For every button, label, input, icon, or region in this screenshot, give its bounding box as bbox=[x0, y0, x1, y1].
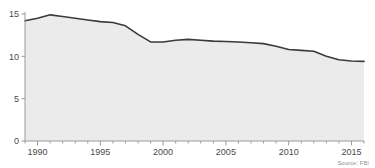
x-tick-label: 1990 bbox=[28, 147, 48, 157]
y-tick-label: 5 bbox=[14, 94, 19, 104]
area-fill bbox=[25, 15, 364, 141]
y-tick-label: 10 bbox=[9, 52, 19, 62]
chart-container: 051015 199019952000200520102015 Source: … bbox=[0, 0, 375, 168]
y-axis bbox=[22, 12, 26, 141]
x-tick-label: 2000 bbox=[153, 147, 173, 157]
y-tick-labels: 051015 bbox=[9, 9, 19, 146]
x-tick-labels: 199019952000200520102015 bbox=[28, 147, 362, 157]
y-tick-label: 15 bbox=[9, 9, 19, 19]
area-chart: 051015 199019952000200520102015 bbox=[0, 0, 375, 168]
x-tick-label: 1995 bbox=[90, 147, 110, 157]
x-tick-label: 2010 bbox=[279, 147, 299, 157]
x-tick-label: 2005 bbox=[216, 147, 236, 157]
x-tick-label: 2015 bbox=[341, 147, 361, 157]
x-axis bbox=[25, 141, 364, 146]
y-tick-label: 0 bbox=[14, 136, 19, 146]
source-attribution: Source: FBI bbox=[338, 160, 369, 166]
